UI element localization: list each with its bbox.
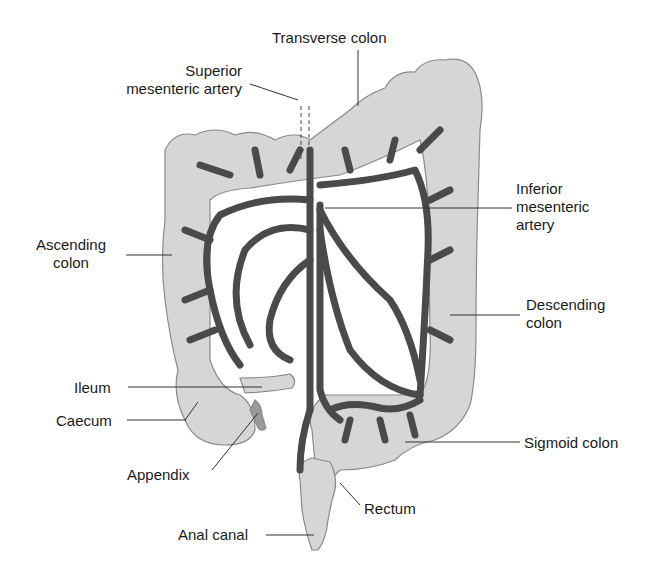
label-ascending-line1: Ascending [26,236,116,254]
label-appendix: Appendix [127,466,190,484]
label-sigmoid-colon: Sigmoid colon [524,434,618,452]
label-sma-line1: Superior [92,62,242,80]
label-ileum: Ileum [74,379,111,397]
label-inferior-mesenteric-artery: Inferior mesenteric artery [516,180,589,234]
label-rectum: Rectum [364,500,416,518]
label-descending-line1: Descending [526,296,605,314]
label-ascending-line2: colon [26,254,116,272]
label-transverse-colon: Transverse colon [272,29,387,47]
label-descending-colon: Descending colon [526,296,605,332]
label-superior-mesenteric-artery: Superior mesenteric artery [92,62,242,98]
label-sma-line2: mesenteric artery [92,80,242,98]
label-ima-line2: mesenteric [516,198,589,216]
label-caecum: Caecum [56,412,112,430]
label-ima-line1: Inferior [516,180,589,198]
label-anal-canal: Anal canal [178,526,248,544]
label-ascending-colon: Ascending colon [26,236,116,272]
label-descending-line2: colon [526,314,605,332]
label-ima-line3: artery [516,216,589,234]
